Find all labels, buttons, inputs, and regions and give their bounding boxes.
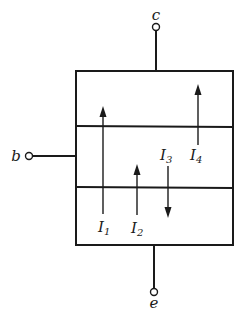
transistor-diagram: c b e I1 I2 I3 I4 — [0, 0, 243, 313]
current-i4-label: I4 — [189, 146, 202, 165]
base-terminal: b — [11, 147, 76, 165]
layer-divider-lower — [76, 187, 233, 188]
collector-terminal: c — [152, 6, 161, 71]
arrowhead-down-icon — [165, 207, 172, 218]
base-label: b — [11, 147, 21, 165]
collector-label: c — [152, 6, 161, 24]
collector-node-icon — [153, 24, 160, 31]
emitter-label: e — [150, 294, 159, 312]
arrowhead-up-icon — [195, 84, 202, 95]
current-i1-label: I1 — [97, 218, 110, 237]
arrowhead-up-icon — [100, 106, 107, 117]
layer-divider-upper — [76, 126, 233, 127]
base-node-icon — [26, 153, 33, 160]
current-i1-arrow — [100, 106, 107, 214]
current-i4-arrow — [195, 84, 202, 145]
emitter-terminal: e — [150, 245, 159, 312]
arrowhead-up-icon — [134, 164, 141, 175]
current-i3-arrow — [165, 166, 172, 218]
current-i2-label: I2 — [130, 219, 143, 238]
current-i3-label: I3 — [159, 146, 172, 165]
current-i2-arrow — [134, 164, 141, 215]
